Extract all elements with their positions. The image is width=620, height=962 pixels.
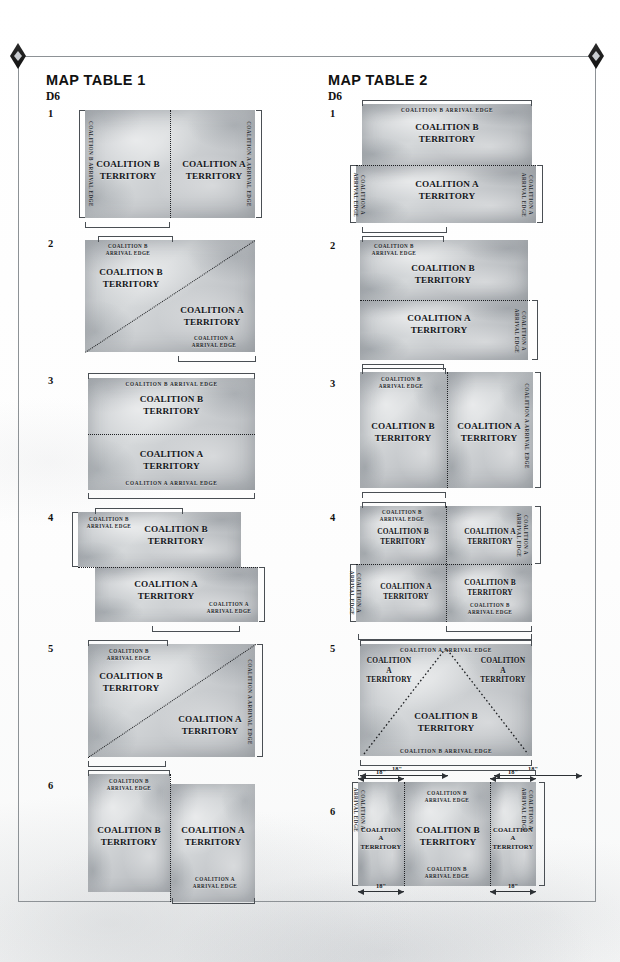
- arrival-edge-label: COALITION A ARRIVAL EDGE: [523, 376, 530, 476]
- territory-label: COALITION B TERRITORY: [88, 266, 174, 290]
- territory-label: COALITION A TERRITORY: [472, 656, 534, 685]
- arrival-edge-label: COALITION B ARRIVAL EDGE: [363, 376, 439, 391]
- divider: [170, 110, 171, 218]
- arrival-edge-label: COALITION A ARRIVAL EDGE: [178, 335, 250, 350]
- territory-label: COALITION B TERRITORY: [406, 824, 490, 848]
- measure-bracket: [178, 356, 256, 362]
- divider: [447, 372, 448, 488]
- territory-label: COALITION A TERRITORY: [449, 420, 529, 444]
- row-number: 2: [48, 238, 53, 249]
- territory-label: COALITION A TERRITORY: [490, 826, 536, 851]
- arrival-edge-label: COALITION B ARRIVAL EDGE: [92, 243, 164, 258]
- measure-bracket: [362, 227, 447, 233]
- divider: [88, 434, 255, 435]
- measure-bracket: [98, 236, 173, 242]
- dimension-label: 18": [359, 882, 403, 889]
- territory-label: COALITION B TERRITORY: [360, 527, 446, 546]
- measure-bracket: [257, 644, 263, 757]
- arrival-edge-label: COALITION A ARRIVAL EDGE: [90, 480, 253, 488]
- territory-label: COALITION B TERRITORY: [120, 523, 232, 547]
- map-table-2-title: MAP TABLE 2: [328, 72, 428, 88]
- measure-bracket: [79, 110, 85, 218]
- territory-label: COALITION A TERRITORY: [358, 656, 420, 685]
- arrival-edge-label: COALITION A ARRIVAL EDGE: [362, 647, 530, 655]
- arrival-edge-label: COALITION B ARRIVAL EDGE: [90, 381, 253, 389]
- row-number: 1: [48, 108, 53, 119]
- row-number: 3: [330, 378, 335, 389]
- measure-bracket: [88, 493, 255, 499]
- row-number: 6: [330, 806, 335, 817]
- dimension-label: 18": [491, 768, 535, 775]
- measure-bracket: [362, 236, 444, 242]
- measure-bracket: [88, 761, 166, 767]
- measure-bracket: [446, 626, 532, 632]
- map-table-2-die-label: D6: [328, 90, 342, 102]
- measure-bracket: [152, 626, 240, 632]
- divider: [404, 782, 405, 886]
- arrival-edge-label: COALITION B ARRIVAL EDGE: [406, 866, 488, 881]
- measure-bracket: [535, 372, 541, 488]
- territory-label: COALITION A TERRITORY: [170, 304, 254, 328]
- map-table-1-title: MAP TABLE 1: [46, 72, 146, 88]
- dimension-label: 18": [359, 768, 403, 775]
- territory-label: COALITION B TERRITORY: [88, 670, 174, 694]
- measure-bracket: [352, 782, 358, 886]
- dimension-line: [490, 891, 536, 892]
- measure-bracket: [360, 640, 532, 646]
- dimension-label: 18": [491, 882, 535, 889]
- measure-bracket: [350, 564, 356, 622]
- arrival-edge-label: COALITION A ARRIVAL EDGE: [245, 118, 252, 210]
- territory-label: COALITION B TERRITORY: [88, 158, 168, 182]
- territory-label: COALITION A TERRITORY: [372, 178, 522, 202]
- arrival-edge-label: COALITION A ARRIVAL EDGE: [200, 601, 258, 616]
- arrival-edge-label: COALITION B ARRIVAL EDGE: [362, 748, 530, 756]
- row-number: 5: [330, 643, 335, 654]
- dimension-line: [358, 778, 404, 779]
- territory-label: COALITION B TERRITORY: [372, 262, 514, 286]
- measure-bracket: [85, 222, 170, 228]
- measure-bracket: [532, 300, 538, 360]
- arrival-edge-label: COALITION A ARRIVAL EDGE: [512, 304, 527, 358]
- divider: [356, 165, 536, 166]
- territory-label: COALITION B TERRITORY: [448, 578, 532, 597]
- arrival-edge-label: COALITION B ARRIVAL EDGE: [363, 243, 425, 258]
- arrival-edge-label: COALITION B ARRIVAL EDGE: [452, 602, 528, 617]
- territory-label: COALITION B TERRITORY: [90, 393, 253, 417]
- measure-bracket: [535, 506, 541, 564]
- territory-label: COALITION A TERRITORY: [368, 312, 510, 336]
- divider: [78, 567, 258, 568]
- measure-bracket: [88, 373, 255, 379]
- territory-label: COALITION A TERRITORY: [358, 826, 404, 851]
- measure-bracket: [256, 110, 262, 218]
- measure-bracket: [350, 165, 356, 223]
- territory-label: COALITION B TERRITORY: [364, 121, 530, 145]
- territory-label: COALITION A TERRITORY: [110, 578, 222, 602]
- arrival-edge-label: COALITION B ARRIVAL EDGE: [92, 778, 166, 793]
- measure-bracket: [88, 770, 170, 776]
- territory-label: COALITION A TERRITORY: [172, 824, 254, 848]
- measure-bracket: [537, 165, 543, 223]
- measure-bracket: [539, 782, 545, 886]
- arrival-edge-label: COALITION A ARRIVAL EDGE: [180, 876, 250, 891]
- territory-label: COALITION B TERRITORY: [88, 824, 170, 848]
- measure-bracket: [95, 508, 183, 514]
- arrival-edge-label: COALITION B ARRIVAL EDGE: [362, 509, 442, 524]
- divider: [356, 564, 532, 565]
- measure-bracket: [362, 502, 446, 508]
- row-number: 4: [48, 512, 53, 523]
- territory-label: COALITION A TERRITORY: [176, 158, 252, 182]
- row-number: 3: [48, 375, 53, 386]
- territory-label: COALITION B TERRITORY: [398, 710, 494, 734]
- map-table-1-die-label: D6: [46, 90, 60, 102]
- arrival-edge-label: COALITION B ARRIVAL EDGE: [406, 790, 488, 805]
- territory-label: COALITION A TERRITORY: [90, 448, 253, 472]
- arrival-edge-label: COALITION B ARRIVAL EDGE: [87, 118, 94, 210]
- measure-bracket: [88, 640, 168, 646]
- dimension-line: [490, 778, 536, 779]
- arrival-edge-label: COALITION A ARRIVAL EDGE: [519, 169, 534, 221]
- dimension-line: [358, 891, 404, 892]
- row-number: 1: [330, 108, 335, 119]
- arrival-edge-label: COALITION B ARRIVAL EDGE: [364, 107, 530, 115]
- row-number: 4: [330, 512, 335, 523]
- divider: [170, 774, 171, 902]
